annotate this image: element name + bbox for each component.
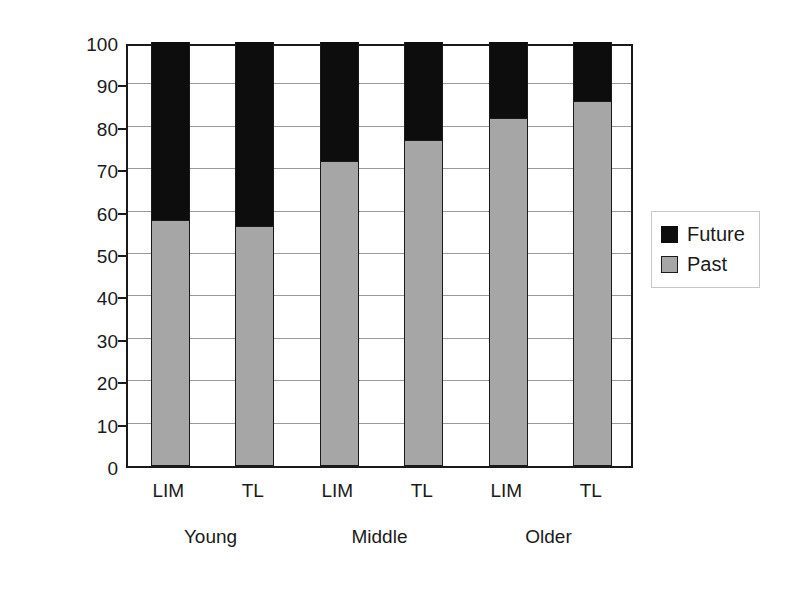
y-tick-label: 90 bbox=[66, 77, 118, 96]
y-tick-label: 50 bbox=[66, 247, 118, 266]
x-tick-label-tl-3: TL bbox=[411, 480, 433, 502]
x-axis-group-labels: YoungMiddleOlder bbox=[126, 525, 633, 553]
y-tick-mark bbox=[118, 340, 126, 342]
y-tick-label: 100 bbox=[66, 35, 118, 54]
past-swatch-icon bbox=[661, 256, 678, 273]
y-tick-label: 10 bbox=[66, 416, 118, 435]
plot-area bbox=[126, 44, 633, 468]
y-tick-label: 40 bbox=[66, 289, 118, 308]
y-tick-label: 70 bbox=[66, 162, 118, 181]
x-tick-label-lim-4: LIM bbox=[490, 480, 522, 502]
stacked-bar[interactable] bbox=[573, 42, 612, 466]
y-tick-mark bbox=[118, 425, 126, 427]
gridline bbox=[128, 211, 631, 212]
stacked-bar[interactable] bbox=[320, 42, 359, 466]
bar-segment-past[interactable] bbox=[404, 140, 443, 466]
y-tick-label: 60 bbox=[66, 204, 118, 223]
x-tick-label-lim-0: LIM bbox=[152, 480, 184, 502]
gridline bbox=[128, 126, 631, 127]
y-axis-tick-labels: 1009080706050403020100 bbox=[58, 44, 118, 468]
gridline bbox=[128, 338, 631, 339]
gridline bbox=[128, 380, 631, 381]
bar-slot bbox=[404, 46, 443, 466]
chart-figure: Percent of events 1009080706050403020100… bbox=[0, 0, 796, 591]
y-tick-mark bbox=[118, 255, 126, 257]
y-tick-mark bbox=[118, 297, 126, 299]
gridline bbox=[128, 253, 631, 254]
legend-label: Past bbox=[687, 254, 727, 274]
bar-segment-future[interactable] bbox=[404, 42, 443, 140]
y-tick-label: 0 bbox=[66, 459, 118, 478]
chart-legend: FuturePast bbox=[651, 211, 760, 288]
gridline bbox=[128, 295, 631, 296]
y-tick-label: 30 bbox=[66, 331, 118, 350]
bar-segment-future[interactable] bbox=[151, 42, 190, 220]
future-swatch-icon bbox=[661, 226, 678, 243]
bar-segment-future[interactable] bbox=[489, 42, 528, 118]
y-tick-label: 20 bbox=[66, 374, 118, 393]
group-label-young: Young bbox=[184, 525, 237, 549]
bar-segment-past[interactable] bbox=[573, 101, 612, 466]
bar-slot bbox=[320, 46, 359, 466]
y-tick-label: 80 bbox=[66, 119, 118, 138]
group-label-middle: Middle bbox=[352, 525, 408, 549]
x-tick-label-tl-5: TL bbox=[580, 480, 602, 502]
bar-slot bbox=[235, 46, 274, 466]
y-tick-mark bbox=[118, 213, 126, 215]
bar-segment-past[interactable] bbox=[320, 161, 359, 466]
y-tick-mark bbox=[118, 170, 126, 172]
x-axis-tick-labels: LIMTLLIMTLLIMTL bbox=[126, 480, 633, 506]
y-axis-title: Percent of events bbox=[22, 0, 52, 74]
gridline bbox=[128, 83, 631, 84]
legend-label: Future bbox=[687, 224, 745, 244]
plot-inner bbox=[128, 46, 631, 466]
gridline bbox=[128, 423, 631, 424]
bar-segment-future[interactable] bbox=[573, 42, 612, 101]
legend-item-future[interactable]: Future bbox=[661, 219, 745, 249]
bar-segment-past[interactable] bbox=[489, 118, 528, 466]
bar-segment-future[interactable] bbox=[235, 42, 274, 226]
bar-slot bbox=[489, 46, 528, 466]
bar-slot bbox=[573, 46, 612, 466]
group-label-older: Older bbox=[525, 525, 571, 549]
stacked-bar[interactable] bbox=[404, 42, 443, 466]
bar-segment-future[interactable] bbox=[320, 42, 359, 161]
y-tick-mark bbox=[118, 128, 126, 130]
bar-segment-past[interactable] bbox=[151, 220, 190, 466]
gridline bbox=[128, 168, 631, 169]
stacked-bar[interactable] bbox=[235, 42, 274, 466]
x-tick-label-lim-2: LIM bbox=[321, 480, 353, 502]
x-tick-label-tl-1: TL bbox=[242, 480, 264, 502]
stacked-bar[interactable] bbox=[489, 42, 528, 466]
legend-item-past[interactable]: Past bbox=[661, 249, 745, 279]
y-tick-mark bbox=[118, 85, 126, 87]
stacked-bar[interactable] bbox=[151, 42, 190, 466]
bar-slot bbox=[151, 46, 190, 466]
y-tick-mark bbox=[118, 382, 126, 384]
bar-segment-past[interactable] bbox=[235, 226, 274, 466]
